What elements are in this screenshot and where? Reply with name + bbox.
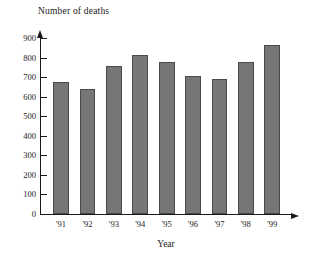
bar (264, 45, 280, 214)
bar (238, 62, 254, 214)
y-tick-label: 700 (23, 72, 36, 82)
bar (159, 62, 175, 214)
y-tick-label: 800 (23, 53, 36, 63)
plot-area: 9008007006005004003002001000 '91'92'93'9… (40, 32, 292, 215)
x-tick-label: '92 (82, 219, 92, 229)
x-axis-arrowhead-icon (291, 213, 299, 219)
x-axis-line (40, 214, 292, 215)
y-tick-label: 900 (23, 33, 36, 43)
x-tick-label: '94 (135, 219, 145, 229)
x-axis-title: Year (40, 239, 292, 249)
y-tick-label: 600 (23, 92, 36, 102)
bar (106, 66, 122, 214)
bar (80, 89, 96, 214)
x-tick-label: '91 (56, 219, 66, 229)
y-tick-label: 100 (23, 189, 36, 199)
y-tick-mark (41, 214, 47, 215)
bar (185, 76, 201, 214)
bar (53, 82, 69, 214)
bar (132, 55, 148, 214)
x-tick-label: '97 (214, 219, 224, 229)
x-tick-label: '95 (162, 219, 172, 229)
bar-series (40, 32, 292, 214)
y-tick-label: 500 (23, 111, 36, 121)
y-tick-label: 400 (23, 131, 36, 141)
y-tick-label: 200 (23, 170, 36, 180)
x-tick-label: '99 (267, 219, 277, 229)
chart-title: Number of deaths (38, 6, 109, 16)
y-tick-label: 0 (32, 209, 36, 219)
x-tick-label: '98 (241, 219, 251, 229)
x-tick-label: '96 (188, 219, 198, 229)
bar-chart: Number of deaths 90080070060050040030020… (0, 0, 331, 265)
bar (212, 79, 228, 214)
y-tick-label: 300 (23, 150, 36, 160)
x-tick-label: '93 (109, 219, 119, 229)
